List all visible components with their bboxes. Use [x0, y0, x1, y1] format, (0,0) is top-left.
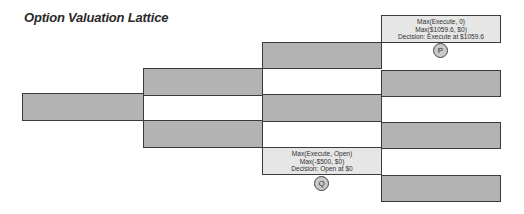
callout-p-text: Max(Execute, 0) Max($1059.6, $0) Decisio… — [382, 18, 500, 41]
lattice-node-2-2-callout-q: Max(Execute, Open) Max(-$500, $0) Decisi… — [262, 147, 382, 175]
callout-q-line2: Max(-$500, $0) — [263, 158, 381, 166]
lattice-node-3-1 — [381, 70, 501, 97]
lattice-node-1-0 — [143, 68, 263, 96]
lattice-node-2-1 — [262, 94, 382, 122]
callout-p-line1: Max(Execute, 0) — [382, 18, 500, 26]
callout-p-line2: Max($1059.6, $0) — [382, 26, 500, 34]
lattice-node-3-2 — [381, 122, 501, 149]
callout-q-line3: Decision: Open at $0 — [263, 165, 381, 173]
callout-q-text: Max(Execute, Open) Max(-$500, $0) Decisi… — [263, 150, 381, 173]
lattice-node-3-0-callout-p: Max(Execute, 0) Max($1059.6, $0) Decisio… — [381, 15, 501, 43]
marker-q-icon: Q — [314, 176, 329, 191]
diagram-title: Option Valuation Lattice — [24, 10, 168, 25]
lattice-node-1-1 — [143, 120, 263, 148]
callout-p-line3: Decision: Execute at $1059.6 — [382, 33, 500, 41]
lattice-node-3-3 — [381, 175, 501, 202]
lattice-node-2-0 — [262, 42, 382, 69]
marker-p-icon: P — [433, 43, 448, 58]
lattice-node-0-0 — [22, 93, 144, 121]
callout-q-line1: Max(Execute, Open) — [263, 150, 381, 158]
